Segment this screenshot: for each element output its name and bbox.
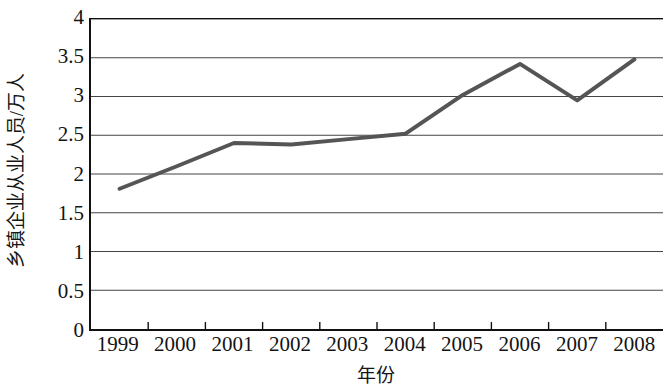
y-tick-label: 2: [74, 164, 85, 185]
plot-svg: [91, 19, 663, 329]
x-tick-label: 2000: [154, 334, 196, 355]
x-tick-label: 2001: [212, 334, 254, 355]
y-tick-label: 0.5: [58, 281, 84, 302]
x-tick-label: 2004: [384, 334, 426, 355]
x-tick-label: 2005: [441, 334, 483, 355]
y-tick-label: 3: [74, 85, 85, 106]
x-tick-label: 2003: [326, 334, 368, 355]
x-tick-label: 2002: [269, 334, 311, 355]
x-axis-title-text: 年份: [357, 365, 395, 386]
x-tick-label: 2007: [556, 334, 598, 355]
plot-area: [89, 18, 663, 331]
y-tick-label: 2.5: [58, 124, 84, 145]
data-series-line: [120, 59, 635, 188]
x-axis-tick-marks: [148, 322, 606, 329]
y-tick-label: 1: [74, 242, 85, 263]
y-axis-tick-labels: 00.511.522.533.54: [28, 0, 84, 390]
y-tick-label: 3.5: [58, 46, 84, 67]
line-chart-figure: 乡镇企业从业人员/万人 00.511.522.533.54 1999200020…: [0, 0, 663, 390]
y-tick-label: 1.5: [58, 203, 84, 224]
y-tick-label: 4: [74, 7, 85, 28]
x-axis-title: 年份: [89, 360, 663, 387]
gridlines: [91, 19, 663, 290]
x-tick-label: 2006: [499, 334, 541, 355]
x-tick-label: 1999: [97, 334, 139, 355]
y-tick-label: 0: [74, 320, 85, 341]
x-tick-label: 2008: [613, 334, 655, 355]
y-axis-title-text: 乡镇企业从业人员/万人: [2, 72, 29, 267]
y-axis-title: 乡镇企业从业人员/万人: [0, 0, 30, 340]
